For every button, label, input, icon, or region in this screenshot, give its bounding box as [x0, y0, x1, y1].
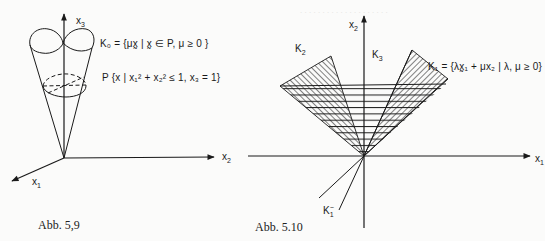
figure-5-10: [248, 16, 530, 228]
K1-definition: K₁ = {λx̰₁ + μx₂ | λ, μ ≥ 0}: [428, 62, 542, 72]
K3-label: K3: [372, 50, 383, 62]
K0-definition: K₀ = {μx̰ | x̰ ∈ P, μ ≥ 0 }: [100, 39, 208, 49]
x1-axis-label: x1: [535, 154, 544, 166]
x1-axis-label: x1: [32, 177, 41, 189]
cone-side-left: [30, 45, 64, 158]
K1-minus-label: K−1: [323, 204, 334, 218]
P-diameter-horizontal: [43, 85, 86, 86]
x2-axis-label: x2: [222, 152, 231, 164]
figure-caption-5-9: Abb. 5,9: [38, 218, 80, 233]
figures-canvas: [0, 0, 545, 241]
P-definition: P {x | x₁² + x₂² ≤ 1, x₃ = 1}: [102, 73, 220, 83]
cone-top-rim: [30, 29, 63, 54]
K1-minus-ray-b: [339, 156, 364, 210]
K1-minus-ray-a: [319, 156, 364, 198]
x2-axis: [64, 157, 214, 158]
x3-axis-label: x3: [76, 16, 85, 28]
K2-label: K2: [295, 44, 306, 56]
figure-caption-5-10: Abb. 5.10: [255, 220, 303, 235]
scanned-page: . . . . . . . . . . . . . . . . . . . .: [0, 0, 545, 241]
x2-axis-label: x2: [349, 20, 358, 32]
cone-side-right: [64, 48, 92, 158]
